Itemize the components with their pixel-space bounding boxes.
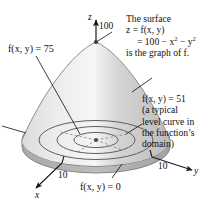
level-curve-line-5: domain) bbox=[142, 138, 195, 149]
leader-base-left bbox=[2, 126, 26, 133]
level-curves-figure: z 100 f(x, y) = 75 The surface z = f(x, … bbox=[0, 0, 219, 210]
apex-dot bbox=[94, 40, 98, 44]
level-curve-line-4: the function’s bbox=[142, 127, 195, 138]
leader-100 bbox=[98, 32, 112, 41]
level-0-label: f(x, y) = 0 bbox=[80, 181, 121, 193]
level-curve-line-3: level curve in bbox=[142, 116, 195, 127]
surface-annotation: The surface z = f(x, y) = 100 − x2 − y2 … bbox=[126, 13, 196, 58]
surface-line-4: is the graph of f. bbox=[126, 47, 196, 58]
surface-line-1: The surface bbox=[126, 13, 196, 24]
level-curve-annotation: f(x, y) = 51 (a typical level curve in t… bbox=[142, 93, 195, 150]
surface-line-3: = 100 − x2 − y2 bbox=[126, 36, 196, 47]
y-axis-label: y bbox=[194, 166, 198, 177]
surface-line-3-prefix: = 100 − x bbox=[137, 36, 174, 47]
surface-left-half bbox=[22, 42, 96, 166]
origin-dot bbox=[94, 138, 98, 142]
y-tick-label: 10 bbox=[158, 161, 168, 172]
level-curve-line-1: f(x, y) = 51 bbox=[142, 93, 195, 104]
surface-line-3-middle: − y bbox=[177, 36, 192, 47]
z-axis-label: z bbox=[88, 12, 92, 23]
level-curve-line-2: (a typical bbox=[142, 104, 195, 115]
x-axis-label: x bbox=[35, 190, 39, 201]
surface-line-3-exponent-2: 2 bbox=[193, 34, 196, 41]
level-75-label: f(x, y) = 75 bbox=[8, 43, 54, 55]
x-tick-label: 10 bbox=[58, 170, 68, 181]
z-tick-label: 100 bbox=[99, 21, 113, 32]
surface-line-2: z = f(x, y) bbox=[126, 24, 196, 35]
